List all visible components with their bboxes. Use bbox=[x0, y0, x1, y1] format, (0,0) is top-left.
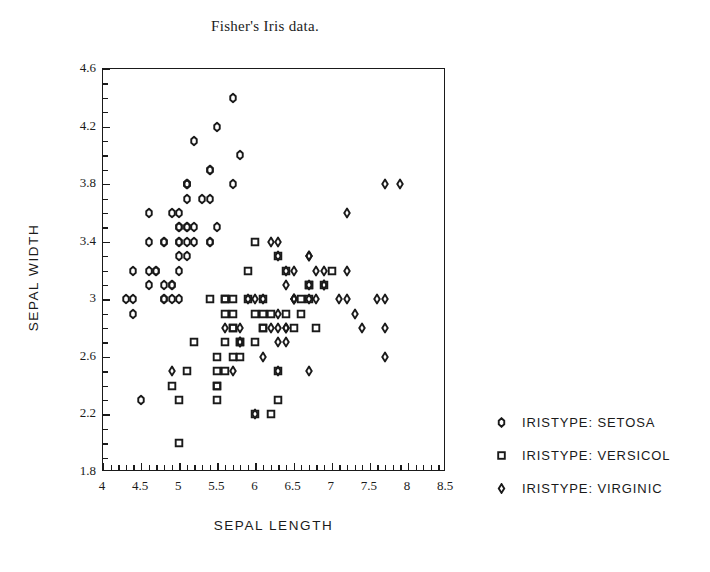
y-axis-major-tick bbox=[103, 127, 110, 128]
y-axis-minor-tick bbox=[103, 328, 108, 329]
data-point bbox=[349, 308, 360, 319]
x-axis-minor-tick bbox=[355, 465, 356, 470]
data-point bbox=[204, 236, 215, 247]
y-axis-minor-tick bbox=[103, 98, 108, 99]
data-point bbox=[235, 323, 246, 334]
y-tick-label: 3 bbox=[56, 290, 96, 306]
data-point bbox=[174, 395, 185, 406]
data-point bbox=[174, 438, 185, 449]
data-point bbox=[273, 366, 284, 377]
data-point bbox=[250, 409, 261, 420]
x-axis-minor-tick bbox=[301, 465, 302, 470]
plot-canvas bbox=[103, 69, 444, 470]
y-tick-label: 2.6 bbox=[56, 348, 96, 364]
x-axis-minor-tick bbox=[385, 465, 386, 470]
data-point bbox=[189, 135, 200, 146]
y-axis-minor-tick bbox=[103, 285, 108, 286]
data-point bbox=[189, 337, 200, 348]
data-point bbox=[181, 193, 192, 204]
data-point bbox=[280, 265, 291, 276]
data-point bbox=[273, 337, 284, 348]
x-axis-minor-tick bbox=[438, 465, 439, 470]
data-point bbox=[341, 265, 352, 276]
data-point bbox=[174, 294, 185, 305]
x-axis-minor-tick bbox=[111, 465, 112, 470]
x-axis-minor-tick bbox=[416, 465, 417, 470]
data-point bbox=[181, 179, 192, 190]
data-point bbox=[303, 251, 314, 262]
data-point bbox=[212, 222, 223, 233]
data-point bbox=[341, 207, 352, 218]
data-point bbox=[158, 294, 169, 305]
y-tick-label: 1.8 bbox=[56, 463, 96, 479]
y-axis-minor-tick bbox=[103, 342, 108, 343]
data-point bbox=[204, 294, 215, 305]
legend-item[interactable]: IRISTYPE: VERSICOL bbox=[488, 439, 703, 472]
data-point bbox=[174, 265, 185, 276]
x-tick-label: 6 bbox=[251, 478, 258, 494]
y-tick-label: 2.2 bbox=[56, 405, 96, 421]
data-point bbox=[311, 323, 322, 334]
data-point bbox=[280, 279, 291, 290]
data-point bbox=[303, 294, 314, 305]
x-tick-label: 8.5 bbox=[437, 478, 453, 494]
x-axis-minor-tick bbox=[172, 465, 173, 470]
x-axis-minor-tick bbox=[118, 465, 119, 470]
legend-item[interactable]: IRISTYPE: VIRGINIC bbox=[488, 472, 703, 505]
legend-item[interactable]: IRISTYPE: SETOSA bbox=[488, 406, 703, 439]
data-point bbox=[166, 366, 177, 377]
data-point bbox=[227, 179, 238, 190]
y-axis-major-tick bbox=[103, 357, 110, 358]
y-axis-minor-tick bbox=[103, 429, 108, 430]
plot-frame bbox=[102, 68, 445, 471]
data-point bbox=[212, 380, 223, 391]
data-point bbox=[319, 279, 330, 290]
data-point bbox=[227, 308, 238, 319]
x-axis-major-tick bbox=[294, 463, 295, 470]
chart-title: Fisher's Iris data. bbox=[0, 18, 530, 35]
data-point bbox=[181, 366, 192, 377]
y-axis-minor-tick bbox=[103, 443, 108, 444]
data-point bbox=[197, 193, 208, 204]
data-point bbox=[212, 395, 223, 406]
data-point bbox=[227, 366, 238, 377]
y-axis-minor-tick bbox=[103, 271, 108, 272]
data-point bbox=[242, 265, 253, 276]
data-point bbox=[174, 222, 185, 233]
chart-figure: Fisher's Iris data. 44.555.566.577.588.5… bbox=[0, 0, 710, 572]
x-axis-major-tick bbox=[103, 463, 104, 470]
y-axis-major-tick bbox=[103, 299, 110, 300]
data-point bbox=[380, 323, 391, 334]
data-point bbox=[288, 294, 299, 305]
x-axis-minor-tick bbox=[233, 465, 234, 470]
x-axis-label: SEPAL LENGTH bbox=[102, 518, 445, 533]
y-tick-label: 4.6 bbox=[56, 60, 96, 76]
data-point bbox=[143, 265, 154, 276]
y-axis-major-tick bbox=[103, 69, 110, 70]
x-axis-minor-tick bbox=[263, 465, 264, 470]
data-point bbox=[219, 323, 230, 334]
x-axis-minor-tick bbox=[187, 465, 188, 470]
legend-item-label: IRISTYPE: VERSICOL bbox=[514, 448, 670, 463]
x-axis-major-tick bbox=[370, 463, 371, 470]
x-tick-label: 6.5 bbox=[284, 478, 300, 494]
x-axis-major-tick bbox=[141, 463, 142, 470]
x-axis-minor-tick bbox=[225, 465, 226, 470]
data-point bbox=[273, 395, 284, 406]
x-axis-minor-tick bbox=[339, 465, 340, 470]
data-point bbox=[341, 294, 352, 305]
square-marker-icon bbox=[488, 450, 514, 461]
legend-item-label: IRISTYPE: VIRGINIC bbox=[514, 481, 662, 496]
data-point bbox=[128, 294, 139, 305]
x-axis-minor-tick bbox=[126, 465, 127, 470]
data-point bbox=[235, 351, 246, 362]
data-point bbox=[380, 294, 391, 305]
data-point bbox=[380, 351, 391, 362]
x-axis-minor-tick bbox=[377, 465, 378, 470]
data-point bbox=[250, 337, 261, 348]
x-axis-minor-tick bbox=[240, 465, 241, 470]
y-axis-minor-tick bbox=[103, 227, 108, 228]
chart-legend: IRISTYPE: SETOSAIRISTYPE: VERSICOLIRISTY… bbox=[488, 406, 703, 505]
x-axis-minor-tick bbox=[316, 465, 317, 470]
y-axis-major-tick bbox=[103, 414, 110, 415]
